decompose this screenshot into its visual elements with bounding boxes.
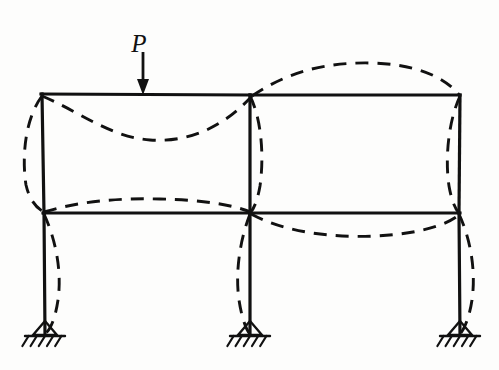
- deflected-column-mid-lower: [238, 214, 250, 334]
- applied-load-group: P: [130, 30, 149, 95]
- column-left-upper: [42, 94, 44, 213]
- ground-hatch-icon: [446, 336, 452, 346]
- ground-hatch-icon: [47, 336, 53, 346]
- ground-hatch-icon: [470, 336, 476, 346]
- ground-hatch-icon: [55, 336, 61, 346]
- load-arrow-head-icon: [137, 79, 149, 95]
- ground-hatch-icon: [462, 336, 468, 346]
- ground-hatch-icon: [437, 336, 443, 346]
- column-right-lower: [459, 213, 460, 334]
- roof-beam-left: [41, 94, 250, 95]
- deflected-floor-left-bay: [44, 199, 251, 212]
- ground-hatch-icon: [252, 336, 258, 346]
- ground-hatch-icon: [244, 336, 250, 346]
- column-left-lower: [44, 213, 45, 334]
- ground-hatch-icon: [39, 336, 45, 346]
- frame-members-group: [41, 94, 460, 334]
- deflected-column-mid-upper: [250, 96, 262, 213]
- deflected-floor-right-bay: [251, 214, 460, 236]
- ground-hatch-icon: [236, 336, 242, 346]
- deflected-roof-left-bay: [42, 96, 252, 140]
- ground-hatch-icon: [22, 336, 28, 346]
- column-right-upper: [459, 95, 460, 213]
- structural-frame-figure: P: [0, 0, 499, 370]
- ground-hatch-icon: [31, 336, 37, 346]
- deflected-roof-right-bay: [252, 63, 460, 96]
- ground-hatch-icon: [260, 336, 266, 346]
- ground-hatch-icon: [227, 336, 233, 346]
- ground-hatch-icon: [454, 336, 460, 346]
- frame-diagram-canvas: P: [0, 0, 499, 370]
